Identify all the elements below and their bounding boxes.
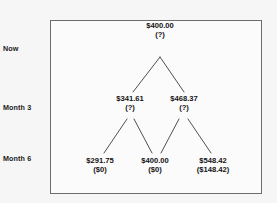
timeline-label-month-3: Month 3 [3,104,31,111]
tree-node-up-payoff: (?) [116,104,143,113]
tree-node-root-payoff: (?) [146,31,173,40]
tree-node-leaf-up-up-payoff: ($148.42) [197,166,230,175]
tree-node-leaf-down-down: $291.75 ($0) [86,157,113,174]
tree-node-down-payoff: (?) [170,104,197,113]
tree-node-leaf-up-up: $548.42 ($148.42) [197,157,230,174]
timeline-label-month-6: Month 6 [3,155,31,162]
tree-node-root: $400.00 (?) [146,22,173,39]
tree-node-leaf-up-down: $400.00 ($0) [141,157,168,174]
timeline-label-now: Now [3,45,18,52]
tree-node-up: $341.61 (?) [116,95,143,112]
tree-node-leaf-up-down-payoff: ($0) [141,166,168,175]
tree-node-leaf-down-down-payoff: ($0) [86,166,113,175]
figure-canvas: Now Month 3 Month 6 $400.00 (?) $341.61 … [0,0,277,203]
tree-node-down: $468.37 (?) [170,95,197,112]
